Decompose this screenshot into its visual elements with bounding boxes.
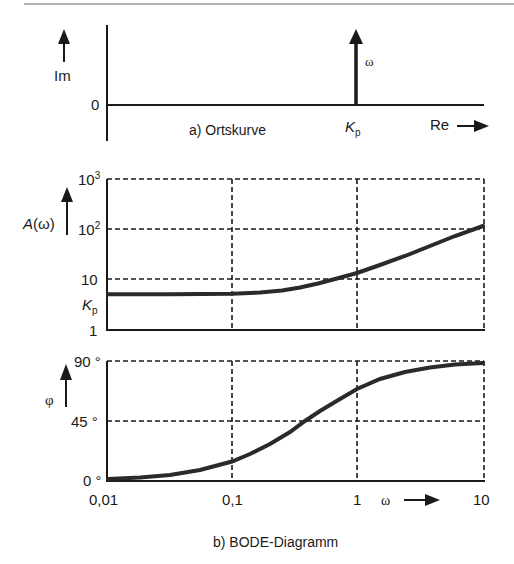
xtick-1: 1 bbox=[353, 491, 361, 508]
im-label: Im bbox=[54, 67, 71, 84]
amplitude-plot: A(ω) 103 102 10 Kp 1 bbox=[22, 170, 485, 339]
amplitude-curve bbox=[108, 226, 483, 294]
tick-0: 0 ° bbox=[83, 472, 102, 489]
im-arrowhead-icon bbox=[58, 29, 70, 44]
phase-plot: φ 90 ° 45 ° 0 ° 0,01 0,1 1 10 ω bbox=[45, 353, 490, 508]
omega-xlabel: ω bbox=[381, 493, 390, 508]
zero-label: 0 bbox=[91, 96, 99, 113]
omega-label: ω bbox=[365, 54, 374, 69]
xtick-10: 10 bbox=[473, 491, 490, 508]
caption-a: a) Ortskurve bbox=[189, 122, 266, 138]
locus-arrowhead-icon bbox=[349, 29, 363, 44]
amp-ylabel: A(ω) bbox=[22, 215, 55, 232]
tick-1: 1 bbox=[89, 322, 97, 339]
xtick-01: 0,1 bbox=[222, 491, 243, 508]
tick-100: 102 bbox=[78, 220, 101, 238]
caption-b: b) BODE-Diagramm bbox=[213, 534, 338, 550]
kp-label: Kp bbox=[345, 118, 361, 138]
figure-canvas: Im 0 ω Kp Re a) Ortskurve A(ω) 103 102 1… bbox=[0, 0, 514, 564]
tick-45: 45 ° bbox=[71, 413, 98, 430]
tick-1000: 103 bbox=[78, 170, 101, 188]
amp-arrowhead-icon bbox=[61, 187, 73, 202]
phase-arrowhead-icon bbox=[60, 364, 72, 380]
tick-90: 90 ° bbox=[74, 353, 101, 370]
tick-10: 10 bbox=[81, 271, 98, 288]
re-arrowhead-icon bbox=[474, 120, 489, 132]
phase-ylabel: φ bbox=[45, 392, 54, 408]
tick-kp: Kp bbox=[82, 296, 98, 316]
xtick-001: 0,01 bbox=[89, 491, 118, 508]
omega-arrowhead-icon bbox=[425, 494, 440, 506]
re-label: Re bbox=[430, 116, 449, 133]
ortskurve-plot: Im 0 ω Kp Re a) Ortskurve bbox=[54, 25, 489, 141]
